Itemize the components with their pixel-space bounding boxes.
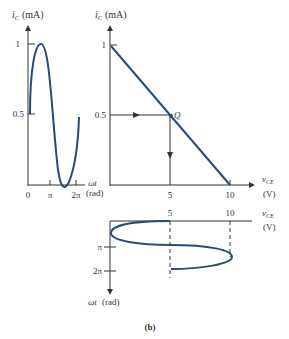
right-plot: Q iC (mA) 1 0.5 5 10 vCE (V) (95, 9, 276, 200)
figure-label: (b) (145, 322, 156, 332)
left-ylabel: iC (mA) (12, 9, 44, 22)
right-ytick-05: 0.5 (95, 110, 107, 120)
left-plot: iC (mA) 1 0.5 0 π 2π ωt (rad) (12, 9, 104, 200)
left-xlabel: ωt (88, 178, 97, 188)
left-xlabel-unit: (rad) (86, 188, 104, 198)
right-xlabel-unit: (V) (263, 189, 276, 199)
q-point (169, 114, 173, 118)
left-ytick-1: 1 (16, 39, 21, 49)
right-ylabel: iC (mA) (95, 9, 127, 22)
bottom-ytick-2pi: 2π (93, 266, 103, 276)
bottom-ytick-pi: π (97, 242, 102, 252)
bottom-xtick-5: 5 (168, 208, 173, 218)
bottom-ylabel: ωt (rad) (88, 297, 120, 307)
bottom-xlabel-unit: (V) (263, 222, 276, 232)
left-xtick-pi: π (48, 190, 53, 200)
left-ytick-05: 0.5 (13, 109, 25, 119)
left-xtick-0: 0 (26, 190, 31, 200)
bottom-xlabel: vCE (262, 208, 274, 219)
left-sine-curve (30, 44, 79, 187)
right-xtick-10: 10 (226, 190, 236, 200)
bottom-plot: 5 10 vCE (V) π 2π ωt (rad) (88, 208, 276, 307)
q-label: Q (174, 110, 181, 120)
right-xlabel: vCE (262, 174, 274, 185)
figure: iC (mA) 1 0.5 0 π 2π ωt (rad) Q iC (mA) … (0, 0, 289, 339)
left-xtick-2pi: 2π (71, 190, 81, 200)
bottom-sine-curve (111, 221, 232, 269)
right-xtick-5: 5 (168, 190, 173, 200)
bottom-xtick-10: 10 (226, 208, 236, 218)
right-ytick-1: 1 (102, 40, 107, 50)
